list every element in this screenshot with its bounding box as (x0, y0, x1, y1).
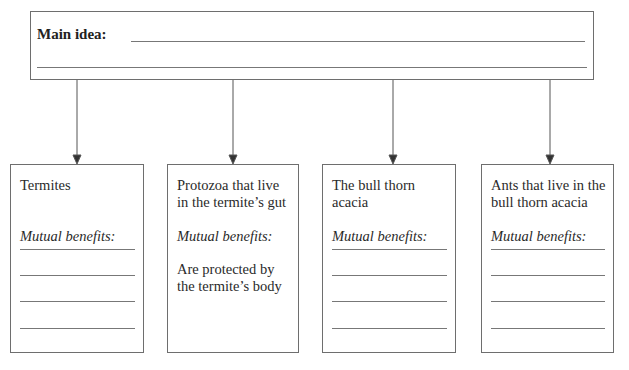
main-idea-answer-line-2[interactable] (37, 67, 587, 68)
answer-line[interactable] (20, 301, 135, 302)
card-protozoa: Protozoa that live in the termite’s gut … (167, 164, 299, 353)
answer-line[interactable] (332, 249, 447, 250)
arrow-head-2-icon (229, 155, 237, 164)
card-title: Termites (20, 177, 137, 194)
answer-line[interactable] (332, 328, 447, 329)
answer-line[interactable] (491, 249, 605, 250)
answer-line[interactable] (332, 301, 447, 302)
answer-line[interactable] (20, 328, 135, 329)
card-subtitle: Mutual benefits: (20, 228, 115, 245)
answer-line[interactable] (491, 301, 605, 302)
arrow-head-3-icon (389, 155, 397, 164)
card-title: Ants that live in the bull thorn acacia (491, 177, 607, 211)
card-ants: Ants that live in the bull thorn acacia … (481, 164, 614, 353)
card-title: Protozoa that live in the termite’s gut (177, 177, 292, 211)
answer-line[interactable] (491, 328, 605, 329)
card-subtitle: Mutual benefits: (332, 228, 427, 245)
card-subtitle: Mutual benefits: (177, 228, 272, 245)
main-idea-label: Main idea: (37, 26, 107, 43)
answer-line[interactable] (20, 249, 135, 250)
arrow-head-1-icon (73, 155, 81, 164)
arrow-head-4-icon (546, 155, 554, 164)
card-title: The bull thorn acacia (332, 177, 449, 211)
answer-line[interactable] (20, 275, 135, 276)
card-benefit-text: Are protected by the termite’s body (177, 261, 292, 295)
card-subtitle: Mutual benefits: (491, 228, 586, 245)
main-idea-answer-line-1[interactable] (131, 41, 585, 42)
card-termites: Termites Mutual benefits: (10, 164, 144, 353)
answer-line[interactable] (332, 275, 447, 276)
answer-line[interactable] (491, 275, 605, 276)
main-idea-box: Main idea: (30, 11, 594, 80)
card-bull-thorn-acacia: The bull thorn acacia Mutual benefits: (322, 164, 456, 353)
